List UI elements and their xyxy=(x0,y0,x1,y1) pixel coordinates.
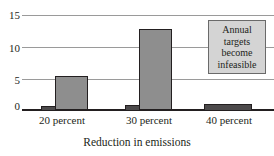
bar-chart: 15 10 5 0 20 percent 30 percent 40 perce… xyxy=(0,0,274,156)
annotation-line-1: Annual xyxy=(218,24,257,36)
gridline-15 xyxy=(22,15,274,16)
x-tick-label-20-percent: 20 percent xyxy=(26,114,98,127)
annotation-line-2: targets xyxy=(218,36,257,48)
y-tick-label-5: 5 xyxy=(2,75,20,86)
y-axis: 15 10 5 0 xyxy=(0,0,20,111)
y-tick-label-15: 15 xyxy=(2,10,20,21)
x-tick-label-30-percent: 30 percent xyxy=(113,114,185,127)
y-tick-label-0: 0 xyxy=(2,101,20,112)
annotation-annual-targets: Annual targets become infeasible xyxy=(208,20,266,74)
bar-gray-20-percent xyxy=(55,76,88,110)
x-tick-label-40-percent: 40 percent xyxy=(193,114,265,127)
bar-gray-30-percent xyxy=(139,29,172,110)
x-axis-title: Reduction in emissions xyxy=(0,136,274,149)
annotation-line-4: infeasible xyxy=(218,59,257,71)
annotation-line-3: become xyxy=(218,47,257,59)
bar-dark-40-percent xyxy=(204,104,252,110)
y-tick-label-10: 10 xyxy=(2,43,20,54)
